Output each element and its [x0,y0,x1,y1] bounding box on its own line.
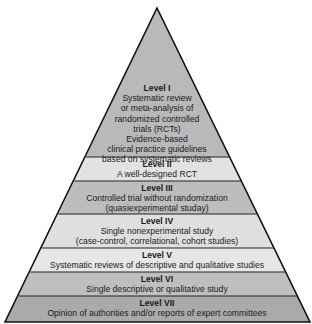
level-4-line: (case-control, correlational, cohort stu… [1,236,312,246]
level-3-line: Controlled trial without randomization [1,193,312,203]
level-5-line: Systematic reviews of descriptive and qu… [1,260,312,270]
level-3-title: Level III [1,183,312,193]
level-2-label: Level II A well-designed RCT [1,159,312,179]
level-6-line: Single descriptive or qualitative study [1,284,312,294]
level-1-line: clinical practice guidelines [1,144,312,154]
level-7-title: Level VII [1,298,312,308]
level-1-label: Level I Systematic review or meta-analys… [1,83,312,165]
level-1-line: Systematic review [1,93,312,103]
level-6-label: Level VI Single descriptive or qualitati… [1,274,312,294]
level-1-line: trials (RCTs) [1,124,312,134]
level-7-line: Opinion of authorities and/or reports of… [1,308,312,318]
level-1-line: randomized controlled [1,114,312,124]
level-4-label: Level IV Single nonexperimental study (c… [1,216,312,247]
level-1-line: or meta-analysis of [1,103,312,113]
level-5-title: Level V [1,250,312,260]
level-2-title: Level II [1,159,312,169]
level-1-title: Level I [1,83,312,93]
level-1-line: Evidence-based [1,134,312,144]
level-2-line: A well-designed RCT [1,169,312,179]
level-6-title: Level VI [1,274,312,284]
level-4-title: Level IV [1,216,312,226]
level-5-label: Level V Systematic reviews of descriptiv… [1,250,312,270]
level-3-label: Level III Controlled trial without rando… [1,183,312,214]
level-3-line: (quasiexperimental studay) [1,203,312,213]
level-7-label: Level VII Opinion of authorities and/or … [1,298,312,318]
level-4-line: Single nonexperimental study [1,226,312,236]
